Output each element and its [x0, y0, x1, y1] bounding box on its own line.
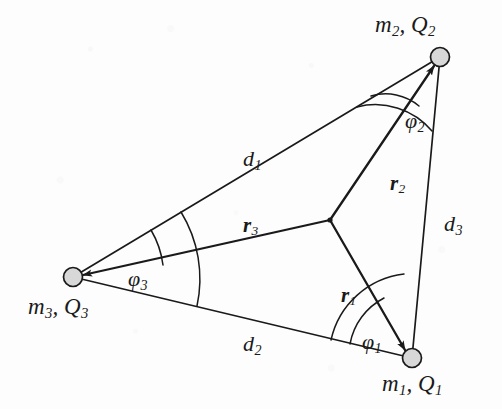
angle-subscript-phi2: 2: [418, 119, 425, 135]
distance-label-d3: d3: [444, 213, 462, 237]
charge-subscript-q1: 1: [435, 382, 442, 398]
vector-label-r3: r3: [243, 215, 258, 238]
angle-subscript-phi1: 1: [375, 340, 382, 356]
vector-subscript-r2: 2: [399, 181, 406, 196]
mass-symbol-m3: m: [28, 294, 45, 319]
centroid-point: [327, 217, 332, 222]
vector-r3: [83, 220, 330, 275]
vector-symbol-r1: r: [341, 283, 349, 307]
mass-comma-m3: ,: [52, 294, 64, 319]
angle-symbol-phi2: φ: [405, 108, 417, 133]
mass-comma-m1: ,: [406, 371, 418, 396]
charge-subscript-q2: 2: [428, 23, 435, 39]
vector-symbol-r2: r: [390, 171, 398, 195]
mass-symbol-m2: m: [375, 12, 392, 37]
vector-label-r2: r2: [390, 173, 405, 196]
charge-symbol-q2: Q: [411, 12, 428, 37]
vector-subscript-r3: 3: [252, 223, 259, 238]
vector-subscript-r1: 1: [350, 293, 357, 308]
charge-subscript-q3: 3: [81, 305, 88, 321]
distance-symbol-d2: d: [243, 331, 254, 356]
mass-node-m1[interactable]: [403, 349, 422, 368]
angle-label-phi3: φ3: [128, 268, 148, 292]
angle-label-phi2: φ2: [405, 110, 425, 134]
charge-symbol-q3: Q: [64, 294, 81, 319]
angle-arc-phi3-outer: [181, 212, 200, 306]
vector-symbol-r3: r: [243, 213, 251, 237]
vector-label-r1: r1: [341, 285, 356, 308]
mass-node-m2[interactable]: [431, 48, 450, 67]
mass-label-m2: m2, Q2: [375, 13, 435, 39]
distance-subscript-d1: 1: [254, 157, 261, 173]
mass-label-m3: m3, Q3: [28, 295, 88, 321]
distance-subscript-d2: 2: [254, 342, 261, 358]
vector-r2: [330, 66, 434, 220]
angle-symbol-phi3: φ: [128, 266, 140, 291]
distance-subscript-d3: 3: [455, 222, 462, 238]
charge-symbol-q1: Q: [418, 371, 435, 396]
distance-label-d2: d2: [243, 333, 261, 357]
side-d3: [412, 57, 440, 358]
distance-symbol-d3: d: [444, 211, 455, 236]
distance-symbol-d1: d: [243, 146, 254, 171]
angle-symbol-phi1: φ: [362, 329, 374, 354]
angle-subscript-phi3: 3: [141, 277, 148, 293]
mass-label-m1: m1, Q1: [382, 372, 442, 398]
angle-label-phi1: φ1: [362, 331, 382, 355]
distance-label-d1: d1: [243, 148, 261, 172]
mass-node-m3[interactable]: [64, 268, 83, 287]
three-body-figure: m2, Q2 m3, Q3 m1, Q1 d1 d2 d3 r1 r2 r3 φ…: [0, 0, 502, 409]
mass-comma-m2: ,: [399, 12, 411, 37]
mass-symbol-m1: m: [382, 371, 399, 396]
